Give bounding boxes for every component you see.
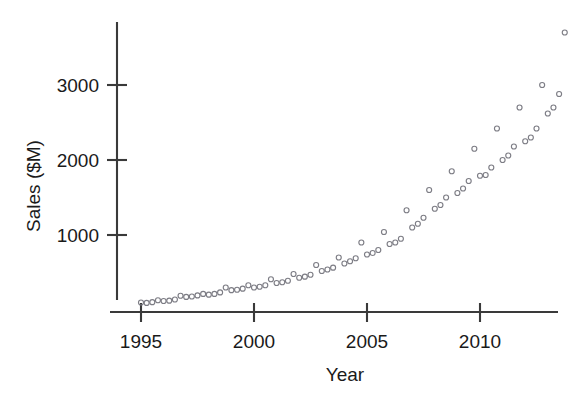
- y-tick-label-1000: 1000: [57, 225, 99, 246]
- data-point: [268, 277, 273, 282]
- data-point: [438, 203, 443, 208]
- data-point: [178, 293, 183, 298]
- data-point: [150, 300, 155, 305]
- data-point: [342, 261, 347, 266]
- data-point: [528, 135, 533, 140]
- data-point: [483, 173, 488, 178]
- data-point: [229, 288, 234, 293]
- data-point: [523, 139, 528, 144]
- data-point: [381, 230, 386, 235]
- y-axis-group: 100020003000: [57, 22, 127, 300]
- data-point: [444, 195, 449, 200]
- data-point: [353, 256, 358, 261]
- data-point: [348, 259, 353, 264]
- data-point: [195, 293, 200, 298]
- data-point: [167, 298, 172, 303]
- data-point: [155, 298, 160, 303]
- data-point: [500, 158, 505, 163]
- x-axis-title: Year: [326, 364, 365, 385]
- data-point: [144, 300, 149, 305]
- data-point: [427, 188, 432, 193]
- data-point: [466, 179, 471, 184]
- data-point: [314, 263, 319, 268]
- data-point: [201, 291, 206, 296]
- data-point: [161, 299, 166, 304]
- data-point: [172, 297, 177, 302]
- data-point: [404, 208, 409, 213]
- data-point: [280, 280, 285, 285]
- data-point: [263, 283, 268, 288]
- data-point: [478, 173, 483, 178]
- data-point: [540, 83, 545, 88]
- x-tick-label-2005: 2005: [346, 331, 388, 352]
- data-point: [393, 240, 398, 245]
- data-point: [235, 287, 240, 292]
- data-point: [562, 30, 567, 35]
- data-point: [421, 215, 426, 220]
- data-point: [511, 144, 516, 149]
- data-point-group: [139, 30, 568, 305]
- data-point: [398, 236, 403, 241]
- data-point: [336, 255, 341, 260]
- data-point: [331, 265, 336, 270]
- y-tick-label-2000: 2000: [57, 150, 99, 171]
- data-point: [285, 278, 290, 283]
- data-point: [534, 126, 539, 131]
- data-point: [240, 286, 245, 291]
- data-point: [432, 206, 437, 211]
- data-point: [449, 169, 454, 174]
- data-point: [506, 153, 511, 158]
- data-point: [319, 269, 324, 274]
- data-point: [494, 126, 499, 131]
- x-tick-label-2000: 2000: [233, 331, 275, 352]
- data-point: [246, 283, 251, 288]
- data-point: [517, 105, 522, 110]
- data-point: [291, 272, 296, 277]
- x-tick-label-2010: 2010: [459, 331, 501, 352]
- data-point: [184, 294, 189, 299]
- x-tick-label-1995: 1995: [120, 331, 162, 352]
- data-point: [545, 111, 550, 116]
- data-point: [189, 294, 194, 299]
- data-point: [252, 285, 257, 290]
- data-point: [365, 252, 370, 257]
- data-point: [376, 248, 381, 253]
- data-point: [472, 146, 477, 151]
- data-point: [461, 186, 466, 191]
- chart-figure: 100020003000 1995200020052010 Sales ($M)…: [0, 0, 587, 396]
- data-point: [297, 275, 302, 280]
- x-axis-group: 1995200020052010: [110, 303, 558, 352]
- data-point: [206, 292, 211, 297]
- x-tick-label-group: 1995200020052010: [120, 331, 501, 352]
- data-point: [223, 285, 228, 290]
- data-point: [415, 221, 420, 226]
- data-point: [387, 242, 392, 247]
- data-point: [359, 240, 364, 245]
- scatter-plot-canvas: 100020003000 1995200020052010 Sales ($M)…: [0, 0, 587, 396]
- data-point: [455, 191, 460, 196]
- data-point: [370, 251, 375, 256]
- data-point: [257, 284, 262, 289]
- data-point: [212, 291, 217, 296]
- y-tick-label-3000: 3000: [57, 75, 99, 96]
- data-point: [551, 105, 556, 110]
- data-point: [302, 274, 307, 279]
- y-tick-label-group: 100020003000: [57, 75, 99, 246]
- data-point: [557, 92, 562, 97]
- data-point: [274, 281, 279, 286]
- data-point: [489, 165, 494, 170]
- data-point: [410, 225, 415, 230]
- data-point: [308, 272, 313, 277]
- data-point: [325, 267, 330, 272]
- data-point: [218, 290, 223, 295]
- y-axis-title: Sales ($M): [23, 140, 44, 232]
